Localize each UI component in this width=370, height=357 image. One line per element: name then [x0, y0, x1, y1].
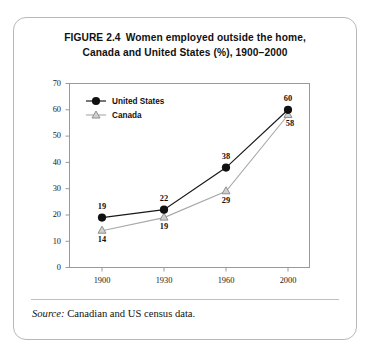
legend-marker-united-states — [92, 97, 100, 105]
data-label-us-2000: 60 — [278, 94, 298, 103]
legend-label-united-states: United States — [112, 97, 164, 106]
source-label: Source: — [32, 308, 65, 319]
y-tick-label-60: 60 — [43, 105, 61, 114]
data-label-us-1900: 19 — [92, 202, 112, 211]
x-tick-label-2000: 2000 — [268, 276, 308, 285]
x-tick-label-1900: 1900 — [82, 276, 122, 285]
legend-markers — [86, 97, 106, 118]
y-tick-label-70: 70 — [43, 79, 61, 88]
y-tick-label-10: 10 — [43, 237, 61, 246]
figure-card: FIGURE 2.4Women employed outside the hom… — [13, 17, 357, 340]
x-axis-ticks — [102, 268, 288, 272]
y-tick-label-50: 50 — [43, 131, 61, 140]
data-label-canada-1900: 14 — [92, 235, 112, 244]
data-label-canada-1930: 19 — [154, 222, 174, 231]
legend-label-canada: Canada — [112, 111, 142, 120]
chart-plot-area: 70 60 50 40 30 20 10 0 1900 1930 1960 20… — [14, 18, 358, 341]
y-tick-label-40: 40 — [43, 158, 61, 167]
y-axis-ticks — [66, 84, 70, 268]
data-label-canada-1960: 29 — [216, 196, 236, 205]
y-tick-label-0: 0 — [43, 263, 61, 272]
x-tick-label-1930: 1930 — [144, 276, 184, 285]
source-text: Canadian and US census data. — [67, 308, 195, 319]
series-line-united-states — [102, 110, 288, 218]
data-label-us-1960: 38 — [216, 152, 236, 161]
source-note: Source: Canadian and US census data. — [32, 308, 342, 319]
source-divider — [31, 299, 339, 300]
data-label-canada-2000: 58 — [280, 119, 300, 128]
data-label-us-1930: 22 — [154, 194, 174, 203]
x-tick-label-1960: 1960 — [206, 276, 246, 285]
y-tick-label-20: 20 — [43, 210, 61, 219]
series-line-canada — [102, 115, 288, 231]
chart-svg — [14, 18, 358, 341]
y-tick-label-30: 30 — [43, 184, 61, 193]
